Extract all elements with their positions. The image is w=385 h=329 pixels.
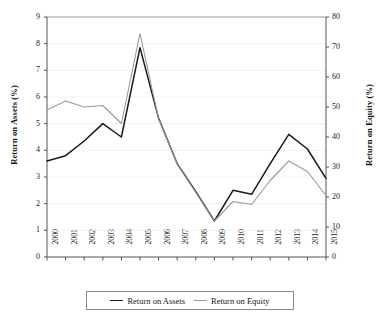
legend-item: Return on Equity xyxy=(194,296,270,306)
legend-item: Return on Assets xyxy=(110,296,185,306)
legend-line-icon xyxy=(110,300,123,301)
plot-area xyxy=(0,0,385,329)
series-line xyxy=(47,48,326,221)
legend-item-label: Return on Equity xyxy=(211,296,270,306)
series-line xyxy=(47,34,326,222)
chart-legend: Return on AssetsReturn on Equity xyxy=(86,291,294,310)
chart-container: Return on Assets (%) Return on Equity (%… xyxy=(0,0,385,329)
legend-line-icon xyxy=(194,300,207,301)
legend-item-label: Return on Assets xyxy=(127,296,185,306)
